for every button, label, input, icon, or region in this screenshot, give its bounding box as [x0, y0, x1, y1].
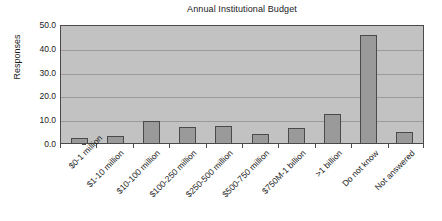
bar — [396, 132, 413, 143]
x-axis-tick-label: $0-1 million — [66, 148, 89, 171]
bar — [107, 136, 124, 143]
plot-area — [60, 25, 424, 144]
bar-slot — [61, 26, 97, 143]
bar-series — [61, 26, 423, 143]
bar-slot — [133, 26, 169, 143]
bar-slot — [170, 26, 206, 143]
bar-slot — [351, 26, 387, 143]
y-axis-tick-label: 40.0 — [26, 45, 56, 54]
bar — [360, 35, 377, 143]
y-axis-tick-label: 50.0 — [26, 21, 56, 30]
bar-slot — [278, 26, 314, 143]
bar-slot — [242, 26, 278, 143]
x-axis-tick-label: $10-100 million — [88, 148, 162, 221]
y-axis-tick-label: 10.0 — [26, 116, 56, 125]
chart-title: Annual Institutional Budget — [60, 4, 424, 14]
chart-figure: Annual Institutional Budget Responses 0.… — [0, 0, 442, 221]
bar-slot — [387, 26, 423, 143]
bar — [143, 121, 160, 143]
bar-slot — [97, 26, 133, 143]
bar — [71, 138, 88, 143]
bar — [324, 114, 341, 143]
y-axis-tick-label: 20.0 — [26, 92, 56, 101]
y-axis-tick-label: 30.0 — [26, 68, 56, 77]
x-axis-tick-labels: $0-1 million$1-10 million$10-100 million… — [60, 148, 424, 218]
bar — [252, 134, 269, 143]
y-axis-title: Responses — [12, 25, 22, 89]
y-axis-tick-labels: 0.010.020.030.040.050.0 — [26, 25, 56, 144]
bar — [288, 128, 305, 143]
bar-slot — [314, 26, 350, 143]
bar-slot — [206, 26, 242, 143]
bar — [179, 127, 196, 143]
bar — [215, 126, 232, 143]
y-axis-tick-label: 0.0 — [26, 140, 56, 149]
